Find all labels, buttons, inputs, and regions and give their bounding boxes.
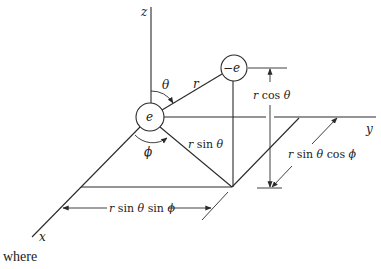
r-label: r xyxy=(193,77,200,91)
x-axis-label: x xyxy=(39,230,46,244)
caption-where: where xyxy=(3,249,37,265)
negative-charge-label: −e xyxy=(223,61,240,75)
r-sin-theta-label: r sin θ xyxy=(188,138,224,151)
sin-phi-extension-tick xyxy=(202,192,228,220)
theta-arc xyxy=(151,91,173,103)
z-axis-label: z xyxy=(140,5,148,19)
x-axis xyxy=(32,127,140,237)
r-sin-theta-cos-phi-label: r sin θ cos ϕ xyxy=(288,148,357,161)
y-axis-label: y xyxy=(365,122,373,136)
r-vector xyxy=(162,74,222,110)
r-sin-theta-cos-phi-arrow-down xyxy=(272,166,292,187)
phi-label: ϕ xyxy=(144,145,152,159)
positive-charge-label: e xyxy=(146,110,153,124)
r-sin-theta-projection xyxy=(160,127,232,187)
phi-arc xyxy=(135,135,167,143)
spherical-coordinates-diagram: z e r −e θ y r cos θ x r sin θ ϕ r sin θ… xyxy=(0,0,381,269)
theta-label: θ xyxy=(162,78,170,92)
r-cos-theta-label: r cos θ xyxy=(253,89,291,102)
r-sin-theta-sin-phi-label: r sin θ sin ϕ xyxy=(109,202,175,215)
r-sin-theta-cos-phi-arrow-up xyxy=(312,118,337,144)
